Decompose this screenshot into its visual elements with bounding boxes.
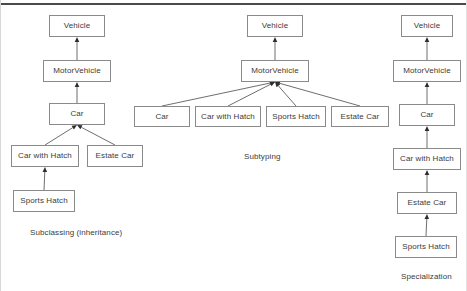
inheritance-arrowhead — [273, 37, 278, 42]
class-box-label: Sports Hatch — [402, 243, 449, 251]
inheritance-arrowhead — [425, 126, 430, 131]
diagram-canvas: VehicleMotorVehicleCarCar with HatchEsta… — [0, 0, 467, 291]
class-box-r-estatecar: Estate Car — [397, 192, 457, 214]
class-box-label: Vehicle — [64, 22, 91, 30]
inheritance-arrowhead — [425, 82, 430, 87]
inheritance-arrowhead — [275, 82, 280, 87]
inheritance-arrowhead — [425, 170, 430, 175]
inheritance-arrowhead — [42, 167, 47, 172]
diagram-caption-subtyping: Subtyping — [244, 152, 280, 161]
class-box-l-car: Car — [49, 103, 105, 125]
inheritance-arrowhead — [72, 125, 77, 130]
class-box-l-motorvehicle: MotorVehicle — [43, 60, 111, 82]
inheritance-arrowhead — [75, 37, 80, 42]
class-box-r-sportshatch: Sports Hatch — [395, 236, 457, 258]
inheritance-arrowhead — [77, 125, 82, 129]
inheritance-arrow-line — [228, 84, 271, 106]
class-box-label: Car — [70, 110, 83, 118]
inheritance-arrow-line — [45, 128, 73, 145]
inheritance-arrow-line — [426, 219, 427, 236]
inheritance-arrow-line — [81, 127, 115, 145]
class-box-l-carwithhatch: Car with Hatch — [11, 145, 79, 167]
class-box-m-sportshatch: Sports Hatch — [266, 106, 326, 127]
inheritance-arrow-line — [162, 83, 270, 106]
class-box-l-sportshatch: Sports Hatch — [13, 190, 75, 212]
class-box-label: Estate Car — [96, 152, 135, 160]
class-box-label: Vehicle — [262, 22, 289, 30]
class-box-r-car: Car — [399, 104, 455, 126]
class-box-label: Car — [155, 113, 168, 121]
inheritance-arrowhead — [425, 37, 430, 42]
class-box-label: Sports Hatch — [272, 113, 319, 121]
class-box-label: Vehicle — [414, 22, 441, 30]
class-box-m-estatecar: Estate Car — [331, 106, 389, 127]
class-box-label: Estate Car — [341, 113, 380, 121]
class-box-label: Car with Hatch — [18, 152, 72, 160]
class-box-label: MotorVehicle — [251, 67, 298, 75]
class-box-m-vehicle: Vehicle — [247, 15, 303, 37]
top-divider-rule — [1, 3, 467, 5]
class-box-label: Sports Hatch — [20, 197, 67, 205]
class-box-m-motorvehicle: MotorVehicle — [241, 60, 309, 82]
class-box-r-vehicle: Vehicle — [401, 15, 453, 37]
class-box-r-motorvehicle: MotorVehicle — [393, 60, 461, 82]
class-box-label: MotorVehicle — [403, 67, 450, 75]
diagram-caption-specialization: Specialization — [401, 272, 452, 281]
class-box-label: Car — [420, 111, 433, 119]
diagram-caption-subclassing: Subclassing (inheritance) — [30, 228, 122, 237]
class-box-r-carwithhatch: Car with Hatch — [393, 148, 461, 170]
class-box-label: Car with Hatch — [400, 155, 454, 163]
inheritance-arrow-line — [44, 172, 45, 190]
inheritance-arrowhead — [270, 82, 275, 86]
class-box-m-carwithhatch: Car with Hatch — [195, 106, 261, 127]
inheritance-arrow-line — [278, 86, 296, 106]
class-box-l-estatecar: Estate Car — [87, 145, 143, 167]
class-box-label: Estate Car — [408, 199, 447, 207]
class-box-label: Car with Hatch — [201, 113, 255, 121]
inheritance-arrow-line — [280, 83, 360, 106]
class-box-l-vehicle: Vehicle — [49, 15, 105, 37]
class-box-m-car: Car — [134, 106, 190, 127]
inheritance-arrowhead — [75, 82, 80, 87]
inheritance-arrowhead — [424, 214, 429, 219]
class-box-label: MotorVehicle — [53, 67, 100, 75]
